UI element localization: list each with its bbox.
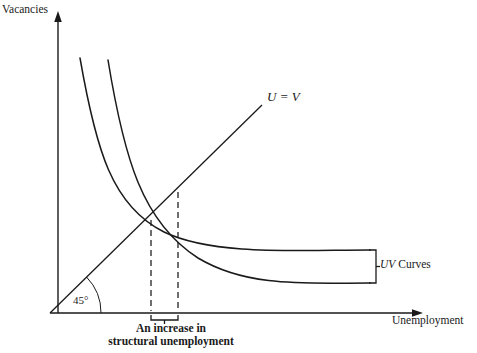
x-axis — [50, 309, 423, 317]
uv-curves-label-italic: UV — [380, 258, 395, 270]
uv-curves-label-rest: Curves — [395, 258, 430, 270]
caption-line-2: structural unemployment — [96, 335, 246, 348]
u-equals-v-line — [50, 105, 262, 313]
u-equals-v-label: U = V — [267, 90, 300, 105]
diagram-canvas — [0, 0, 477, 353]
angle-arc — [87, 277, 102, 313]
uv-curve-figure: Vacancies Unemployment U = V UV Curves 4… — [0, 0, 477, 353]
caption-line-1: An increase in — [96, 322, 246, 335]
uv-curve-initial — [80, 58, 370, 251]
uv-curves-label: UV Curves — [380, 258, 431, 271]
y-axis-label: Vacancies — [2, 3, 48, 16]
structural-unemployment-caption: An increase in structural unemployment — [96, 322, 246, 348]
y-axis — [54, 11, 62, 313]
uv-curves-brace — [369, 250, 380, 283]
x-axis-label: Unemployment — [392, 314, 464, 327]
angle-label: 45° — [73, 294, 88, 306]
